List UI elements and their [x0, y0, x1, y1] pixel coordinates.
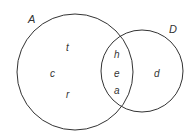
set-d-label: D [169, 23, 177, 35]
element-a: a [114, 85, 120, 96]
set-a-label: A [27, 13, 35, 25]
element-c: c [50, 68, 55, 79]
element-d: d [154, 68, 160, 79]
element-h: h [114, 49, 120, 60]
venn-svg: A D t c r h e a d [0, 0, 190, 139]
element-t: t [66, 42, 70, 53]
element-r: r [66, 89, 70, 100]
element-e: e [114, 68, 120, 79]
venn-diagram: A D t c r h e a d [0, 0, 190, 139]
